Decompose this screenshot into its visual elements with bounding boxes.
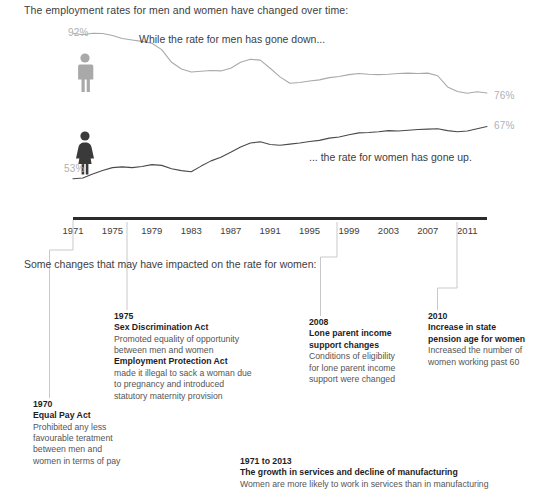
note-1970-body-2: between men and (33, 444, 143, 455)
axis-tick-1979: 1979 (132, 225, 172, 236)
axis-tick-2007: 2007 (408, 225, 448, 236)
note-2008-heading-1: support changes (309, 340, 419, 352)
note-2008-heading-0: Lone parent income (309, 328, 419, 340)
note-1975: 1975 Sex Discrimination Act Promoted equ… (114, 310, 254, 402)
note-2010: 2010 Increase in state pension age for w… (428, 310, 540, 368)
note-2010-heading-0: Increase in state (428, 322, 540, 334)
axis-tick-2011: 2011 (447, 225, 487, 236)
connector-2008 (321, 222, 338, 316)
note-1970-body-3: women in terms of pay (33, 456, 143, 467)
axis-tick-1995: 1995 (290, 225, 330, 236)
infographic-root: The employment rates for men and women h… (0, 0, 546, 496)
note-2010-heading-1: pension age for women (428, 334, 540, 346)
note-growth: 1971 to 2013 The growth in services and … (240, 455, 540, 490)
note-1975-body2-0: made it illegal to sack a woman due (114, 368, 254, 379)
note-1970-body-0: Prohibited any less (33, 422, 143, 433)
women-start-percent-label: 53% (64, 163, 85, 174)
note-1975-body1-0: Promoted equality of opportunity (114, 334, 254, 345)
note-2008-body-0: Conditions of eligibility (309, 351, 419, 362)
note-1975-year: 1975 (114, 310, 254, 322)
note-2008: 2008 Lone parent income support changes … (309, 316, 419, 385)
note-2008-year: 2008 (309, 316, 419, 328)
note-2008-body-1: for lone parent income (309, 363, 419, 374)
note-1975-heading-2: Employment Protection Act (114, 356, 254, 368)
axis-tick-2003: 2003 (368, 225, 408, 236)
note-2010-body-0: Increased the number of (428, 345, 540, 356)
note-1975-heading-1: Sex Discrimination Act (114, 322, 254, 334)
men-caption: While the rate for men has gone down... (139, 33, 325, 45)
section-label: Some changes that may have impacted on t… (24, 258, 316, 270)
note-growth-year: 1971 to 2013 (240, 455, 540, 467)
timeline-axis-bar (73, 217, 487, 220)
note-2008-body-2: support were changed (309, 374, 419, 385)
women-end-percent-label: 67% (494, 120, 515, 131)
women-caption: ... the rate for women has gone up. (309, 151, 472, 163)
axis-tick-1999: 1999 (329, 225, 369, 236)
note-2010-body-1: women working past 60 (428, 357, 540, 368)
note-2010-year: 2010 (428, 310, 540, 322)
note-1970-body-1: favourable teratment (33, 433, 143, 444)
note-growth-heading: The growth in services and decline of ma… (240, 467, 540, 479)
note-1970: 1970 Equal Pay Act Prohibited any less f… (33, 398, 143, 467)
axis-tick-1987: 1987 (211, 225, 251, 236)
axis-tick-1975: 1975 (92, 225, 132, 236)
note-1975-body2-2: statutory maternity provision (114, 391, 254, 402)
note-1970-heading: Equal Pay Act (33, 410, 143, 422)
connector-1970 (50, 220, 74, 398)
male-pictogram-icon (78, 53, 93, 92)
note-growth-body: Women are more likely to work in service… (240, 479, 540, 490)
axis-tick-1983: 1983 (171, 225, 211, 236)
axis-tick-1971: 1971 (53, 225, 93, 236)
note-1975-body2-1: to pregnancy and introduced (114, 379, 254, 390)
men-start-percent-label: 92% (68, 27, 89, 38)
axis-tick-1991: 1991 (250, 225, 290, 236)
men-end-percent-label: 76% (494, 90, 515, 101)
note-1975-body1-1: between men and women (114, 345, 254, 356)
